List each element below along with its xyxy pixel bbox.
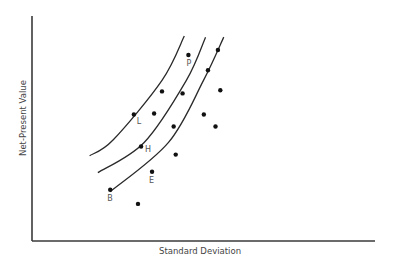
- data-point: [202, 112, 206, 116]
- point-p: [186, 53, 190, 57]
- data-point: [206, 68, 210, 72]
- point-label-b: B: [107, 194, 113, 203]
- point-label-p: P: [186, 59, 191, 68]
- point-label-l: L: [137, 117, 142, 126]
- point-e: [150, 170, 154, 174]
- data-point: [216, 48, 220, 52]
- point-b: [108, 188, 112, 192]
- data-point: [171, 124, 175, 128]
- data-point: [213, 124, 217, 128]
- indifference-curve-2: [98, 37, 206, 172]
- point-h: [139, 144, 143, 148]
- indifference-curve-1: [90, 36, 185, 156]
- data-point: [136, 202, 140, 206]
- data-point: [174, 152, 178, 156]
- data-point: [180, 91, 184, 95]
- indifference-curve-3: [110, 37, 224, 192]
- y-axis-label: Net-Present Value: [18, 80, 28, 156]
- point-label-h: H: [145, 145, 151, 154]
- data-point: [218, 88, 222, 92]
- point-label-e: E: [149, 176, 154, 185]
- chart: Standard Deviation Net-Present Value PLH…: [0, 0, 394, 261]
- point-l: [132, 112, 136, 116]
- data-point: [160, 89, 164, 93]
- x-axis-label: Standard Deviation: [159, 246, 241, 256]
- data-point: [152, 111, 156, 115]
